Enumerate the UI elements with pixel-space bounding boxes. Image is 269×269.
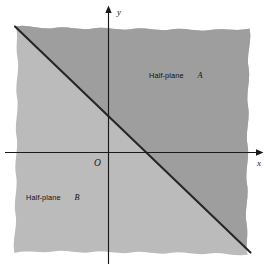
x-axis-label: x [256, 158, 261, 168]
x-axis-arrowhead [256, 149, 264, 155]
diagram-canvas: y x O Half-plane A Half-plane B [0, 0, 269, 269]
half-plane-diagram: y x O Half-plane A Half-plane B [0, 0, 269, 269]
origin-label: O [94, 158, 101, 168]
half-plane-b-label-letter: B [75, 193, 80, 202]
half-plane-a-label: Half-plane [149, 71, 184, 80]
y-axis-label: y [116, 7, 121, 17]
half-plane-b-label: Half-plane [26, 193, 61, 202]
paper-grain-overlay [0, 0, 269, 269]
y-axis-arrowhead [105, 6, 111, 14]
half-plane-a-label-letter: A [197, 71, 204, 80]
